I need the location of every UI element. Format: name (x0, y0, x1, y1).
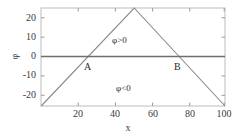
annotation-phi-negative: φ<0 (116, 83, 131, 93)
annotation-phi-positive: φ>0 (112, 35, 127, 45)
x-tick-label-20: 20 (63, 109, 93, 119)
y-tick-label-neg20: -20 (11, 90, 36, 100)
point-label-b: B (174, 61, 181, 72)
x-tick-label-100: 100 (209, 109, 237, 119)
point-label-a: A (84, 61, 91, 72)
y-tick-label-20: 20 (14, 13, 36, 23)
x-axis-title: x (118, 122, 138, 133)
chart-figure: 20 10 0 -10 -20 20 40 60 80 100 φ x φ>0 … (0, 0, 237, 138)
y-axis-title: φ (9, 49, 20, 65)
x-tick-label-60: 60 (138, 109, 168, 119)
y-tick-label-10: 10 (14, 32, 36, 42)
x-tick-label-40: 40 (100, 109, 130, 119)
y-tick-label-neg10: -10 (11, 70, 36, 80)
x-tick-label-80: 80 (175, 109, 205, 119)
